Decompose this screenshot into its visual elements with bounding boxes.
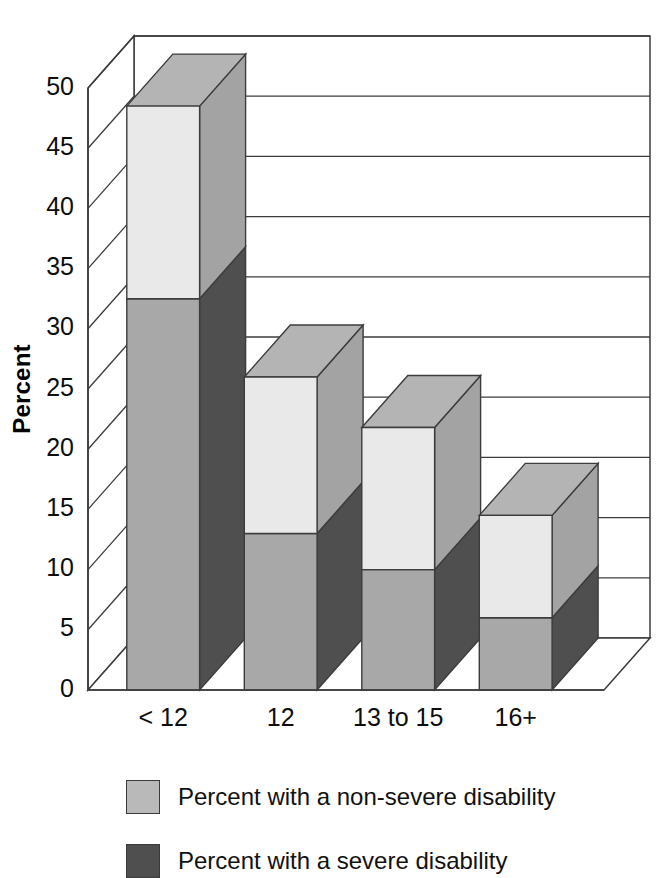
bar-group-1 [244, 325, 363, 690]
bar-front-nonsevere-3 [479, 515, 552, 617]
legend-swatch-non-severe [126, 780, 160, 814]
bar-chart-3d: 05101520253035404550< 121213 to 1516+Yea… [0, 0, 668, 730]
bar-group-3 [479, 463, 598, 690]
y-axis-title: Percent [8, 344, 35, 433]
y-tick-label-50: 50 [46, 72, 74, 100]
bar-front-severe-0 [127, 299, 200, 690]
x-category-label-3: 16+ [494, 703, 536, 730]
y-tick-label-0: 0 [60, 674, 74, 702]
bar-group-2 [362, 376, 481, 691]
legend-item-non-severe: Percent with a non-severe disability [126, 780, 556, 814]
bar-front-nonsevere-1 [244, 377, 317, 534]
legend-label-severe: Percent with a severe disability [178, 849, 507, 873]
legend-swatch-severe [126, 844, 160, 878]
y-tick-label-5: 5 [60, 613, 74, 641]
y-tick-label-40: 40 [46, 192, 74, 220]
legend-label-non-severe: Percent with a non-severe disability [178, 785, 556, 809]
y-tick-label-20: 20 [46, 433, 74, 461]
bar-front-severe-2 [362, 570, 435, 690]
chart-legend: Percent with a non-severe disability Per… [0, 772, 668, 859]
bar-front-severe-3 [479, 618, 552, 690]
x-category-label-2: 13 to 15 [353, 703, 443, 730]
bar-front-nonsevere-0 [127, 106, 200, 299]
bar-front-severe-1 [244, 534, 317, 691]
bar-group-0 [127, 54, 246, 690]
legend-item-severe: Percent with a severe disability [126, 844, 507, 878]
y-tick-label-35: 35 [46, 252, 74, 280]
x-category-label-1: 12 [267, 703, 295, 730]
bar-side-severe-0 [200, 247, 246, 690]
bar-front-nonsevere-2 [362, 428, 435, 570]
y-tick-label-45: 45 [46, 132, 74, 160]
y-tick-label-30: 30 [46, 312, 74, 340]
y-tick-label-15: 15 [46, 493, 74, 521]
y-tick-label-25: 25 [46, 373, 74, 401]
x-category-label-0: < 12 [139, 703, 188, 730]
y-tick-label-10: 10 [46, 553, 74, 581]
chart-canvas: 05101520253035404550< 121213 to 1516+Yea… [0, 0, 668, 730]
